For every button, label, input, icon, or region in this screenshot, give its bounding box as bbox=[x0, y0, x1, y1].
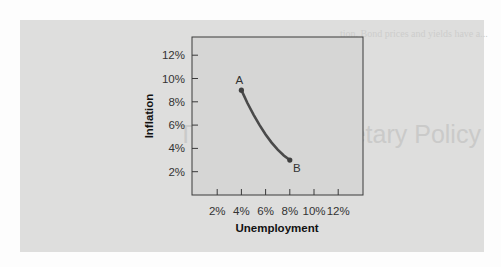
y-tick-label: 6% bbox=[168, 119, 185, 131]
y-tick-label: 12% bbox=[162, 49, 185, 61]
y-tick-label: 4% bbox=[168, 142, 185, 154]
y-tick-label: 2% bbox=[168, 166, 185, 178]
x-axis-title: Unemployment bbox=[235, 222, 318, 234]
point-a-label: A bbox=[236, 74, 244, 86]
y-axis-title: Inflation bbox=[143, 94, 155, 139]
x-tick-label: 12% bbox=[327, 205, 350, 217]
point-a-marker bbox=[239, 88, 244, 93]
x-tick-label: 10% bbox=[302, 205, 325, 217]
y-tick-label: 8% bbox=[168, 96, 185, 108]
x-tick-label: 8% bbox=[281, 205, 298, 217]
x-tick-label: 4% bbox=[233, 205, 250, 217]
x-tick-label: 6% bbox=[257, 205, 274, 217]
point-b-label: B bbox=[293, 162, 301, 174]
phillips-curve-chart: 2%4%6%8%10%12% 2%4%6%8%10%12% AB Inflati… bbox=[0, 0, 501, 267]
point-b-marker bbox=[287, 157, 292, 162]
x-tick-label: 2% bbox=[209, 205, 226, 217]
plot-area bbox=[192, 37, 363, 195]
y-tick-label: 10% bbox=[162, 73, 185, 85]
